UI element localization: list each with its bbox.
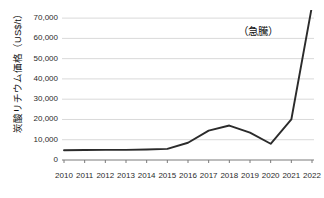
y-axis-tick-labels: 010,00020,00030,00040,00050,00060,00070,…	[10, 0, 58, 198]
y-tick-label: 40,000	[14, 75, 58, 83]
y-tick-label: 30,000	[14, 95, 58, 103]
y-tick-label: 70,000	[14, 14, 58, 22]
spike-annotation: （急騰）	[238, 24, 278, 38]
y-tick-label: 60,000	[14, 34, 58, 42]
x-axis-tick-labels: 2010201120122013201420152016201720182019…	[62, 171, 314, 187]
y-tick-label: 0	[14, 156, 58, 164]
chart-container: 炭酸リチウム価格（US$/t） 010,00020,00030,00040,00…	[0, 0, 324, 198]
x-tick-label: 2022	[297, 171, 324, 181]
y-tick-label: 10,000	[14, 136, 58, 144]
y-tick-label: 20,000	[14, 115, 58, 123]
y-tick-label: 50,000	[14, 55, 58, 63]
